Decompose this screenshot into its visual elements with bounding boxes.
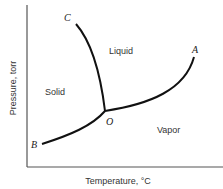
axes bbox=[27, 5, 223, 167]
vaporization-curve-OA bbox=[105, 57, 194, 111]
region-label-solid: Solid bbox=[45, 87, 65, 97]
y-axis-label: Pressure, torr bbox=[8, 61, 18, 116]
fusion-curve-OC bbox=[76, 24, 105, 111]
point-label-a: A bbox=[191, 44, 199, 55]
point-label-o: O bbox=[106, 116, 113, 127]
x-axis-label: Temperature, °C bbox=[85, 176, 151, 186]
sublimation-curve-OB bbox=[42, 111, 105, 144]
point-label-c: C bbox=[64, 12, 71, 23]
region-label-vapor: Vapor bbox=[157, 125, 180, 135]
phase-diagram: C A B O Liquid Solid Vapor Temperature, … bbox=[0, 0, 223, 189]
point-label-b: B bbox=[31, 139, 37, 150]
region-label-liquid: Liquid bbox=[109, 46, 133, 56]
